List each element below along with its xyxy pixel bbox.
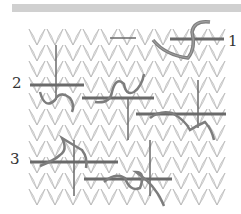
step-1-label: 1: [228, 34, 238, 49]
knit-fabric-illustration: [0, 0, 241, 214]
step-2-label: 2: [12, 76, 22, 91]
step-3-label: 3: [10, 152, 20, 167]
